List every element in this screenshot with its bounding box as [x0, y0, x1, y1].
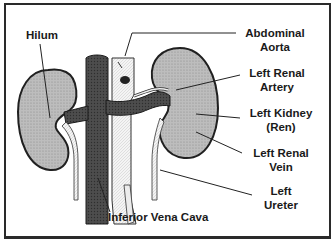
label-text: (Ren) [238, 120, 324, 134]
label-inferior-vena-cava: Inferior Vena Cava [108, 210, 208, 224]
label-abdominal-aorta: Abdominal Aorta [240, 26, 310, 54]
inferior-vena-cava [86, 55, 108, 224]
label-text: Left Renal [240, 66, 314, 80]
ureter-leader [160, 170, 252, 195]
label-text: Artery [240, 80, 314, 94]
label-text: Inferior Vena Cava [108, 210, 208, 224]
label-left-kidney: Left Kidney (Ren) [238, 106, 324, 134]
label-text: Left Kidney [238, 106, 324, 120]
label-text: Left [256, 184, 306, 198]
label-text: Ureter [256, 198, 306, 212]
abdominal-aorta [112, 58, 136, 224]
label-text: Hilum [26, 28, 58, 42]
label-left-renal-artery: Left Renal Artery [240, 66, 314, 94]
label-left-renal-vein: Left Renal Vein [244, 146, 318, 174]
aorta-branch-opening [120, 76, 130, 84]
label-hilum: Hilum [26, 28, 58, 42]
label-text: Abdominal [240, 26, 310, 40]
label-text: Left Renal [244, 146, 318, 160]
label-text: Aorta [240, 40, 310, 54]
label-left-ureter: Left Ureter [256, 184, 306, 212]
label-text: Vein [244, 160, 318, 174]
